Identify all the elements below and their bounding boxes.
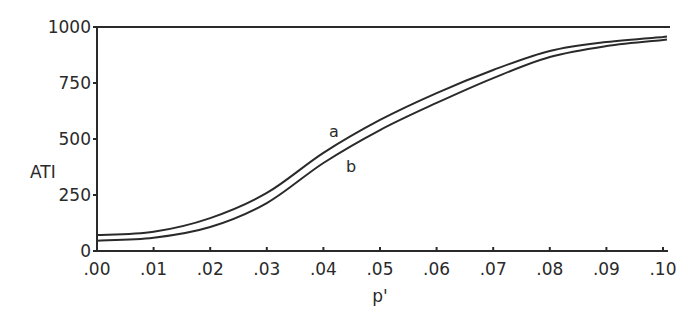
- chart-labels: 02505007501000.00.01.02.03.04.05.06.07.0…: [30, 17, 677, 306]
- x-tick-label: .10: [649, 259, 676, 279]
- y-axis-label: ATI: [30, 162, 56, 182]
- x-tick-label: .01: [140, 259, 167, 279]
- x-tick-label: .00: [83, 259, 110, 279]
- x-tick-label: .07: [480, 259, 507, 279]
- curve-a: [97, 37, 667, 236]
- x-tick-label: .03: [253, 259, 280, 279]
- y-tick-label: 750: [59, 73, 91, 93]
- ati-chart: 02505007501000.00.01.02.03.04.05.06.07.0…: [0, 0, 696, 317]
- y-tick-label: 1000: [48, 17, 91, 37]
- curve-label-a: a: [329, 122, 339, 141]
- curve-label-b: b: [346, 157, 356, 176]
- x-axis-label: p': [372, 286, 387, 306]
- x-tick-label: .04: [310, 259, 337, 279]
- x-tick-label: .08: [536, 259, 563, 279]
- x-tick-label: .02: [197, 259, 224, 279]
- y-tick-label: 500: [59, 129, 91, 149]
- y-tick-label: 0: [80, 241, 91, 261]
- x-tick-label: .09: [593, 259, 620, 279]
- x-tick-label: .06: [423, 259, 450, 279]
- y-tick-label: 250: [59, 185, 91, 205]
- chart-axes: [93, 27, 670, 251]
- chart-curves: [97, 37, 667, 241]
- curve-b: [97, 39, 667, 240]
- x-tick-label: .05: [366, 259, 393, 279]
